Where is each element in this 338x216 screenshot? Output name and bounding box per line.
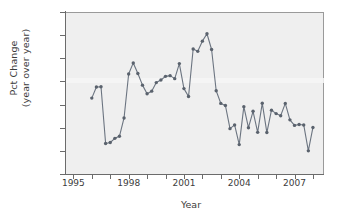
data-point — [168, 74, 171, 77]
data-point — [99, 85, 102, 88]
data-point — [219, 102, 222, 105]
data-point — [132, 61, 135, 64]
data-point — [288, 118, 291, 121]
y-tick-mark — [60, 174, 65, 175]
series-markers — [90, 32, 315, 153]
data-point — [187, 95, 190, 98]
data-point — [150, 89, 153, 92]
data-point — [261, 101, 264, 104]
data-point — [118, 135, 121, 138]
data-point — [302, 123, 305, 126]
chart-figure: Pct Change (year over year) −10010203040… — [0, 0, 338, 216]
data-point — [242, 105, 245, 108]
y-tick-mark — [60, 35, 65, 36]
data-point — [251, 110, 254, 113]
data-point — [113, 137, 116, 140]
data-point — [173, 77, 176, 80]
data-point — [141, 83, 144, 86]
data-point — [224, 104, 227, 107]
data-point — [228, 127, 231, 130]
series-line — [92, 34, 313, 151]
y-tick-mark — [60, 81, 65, 82]
data-point — [127, 72, 130, 75]
data-point — [104, 142, 107, 145]
data-point — [95, 85, 98, 88]
data-point — [265, 131, 268, 134]
data-point — [247, 126, 250, 129]
y-axis-label: Pct Change (year over year) — [8, 4, 32, 132]
x-tick-label: 2001 — [172, 178, 195, 188]
y-tick-mark — [60, 58, 65, 59]
data-point — [164, 75, 167, 78]
x-axis-label: Year — [0, 199, 338, 210]
data-point — [279, 114, 282, 117]
x-axis-label-text: Year — [181, 199, 201, 210]
data-point — [284, 102, 287, 105]
data-point — [109, 141, 112, 144]
data-point — [155, 81, 158, 84]
data-point — [191, 47, 194, 50]
data-point — [210, 48, 213, 51]
data-point — [214, 89, 217, 92]
data-point — [182, 87, 185, 90]
x-tick-label: 1998 — [117, 178, 140, 188]
data-point — [307, 149, 310, 152]
data-point — [159, 78, 162, 81]
data-series-plot — [66, 12, 324, 174]
data-point — [145, 92, 148, 95]
data-point — [256, 131, 259, 134]
x-tick-mark — [110, 175, 111, 179]
y-tick-mark — [60, 105, 65, 106]
y-tick-mark — [60, 128, 65, 129]
data-point — [293, 124, 296, 127]
x-tick-label: 1995 — [62, 178, 85, 188]
data-point — [205, 32, 208, 35]
x-axis-line — [65, 174, 324, 175]
data-point — [233, 123, 236, 126]
x-tick-label: 2007 — [283, 178, 306, 188]
x-tick-mark — [276, 175, 277, 179]
data-point — [311, 126, 314, 129]
data-point — [122, 116, 125, 119]
data-point — [297, 123, 300, 126]
data-point — [238, 143, 241, 146]
y-tick-mark — [60, 151, 65, 152]
data-point — [201, 39, 204, 42]
x-tick-mark — [258, 175, 259, 179]
data-point — [90, 96, 93, 99]
x-tick-mark — [202, 175, 203, 179]
data-point — [136, 72, 139, 75]
x-tick-mark — [147, 175, 148, 179]
x-tick-mark — [313, 175, 314, 179]
x-tick-mark — [92, 175, 93, 179]
y-tick-mark — [60, 12, 65, 13]
data-point — [196, 50, 199, 53]
data-point — [274, 112, 277, 115]
x-tick-mark — [166, 175, 167, 179]
x-tick-mark — [221, 175, 222, 179]
x-tick-label: 2004 — [228, 178, 251, 188]
y-axis-label-line2: (year over year) — [20, 4, 32, 132]
data-point — [270, 108, 273, 111]
y-axis-label-line1: Pct Change — [8, 4, 20, 132]
data-point — [178, 62, 181, 65]
